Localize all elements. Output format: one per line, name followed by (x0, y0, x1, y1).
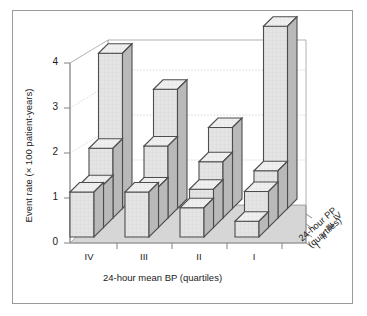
x-axis (70, 243, 306, 249)
y-tick-label: 1 (44, 191, 58, 202)
bar (125, 183, 159, 238)
x-tick-label: III (131, 251, 157, 262)
x-tick-label: IV (76, 251, 102, 262)
x-tick-label: II (186, 251, 212, 262)
y-tick-label: 2 (44, 146, 58, 157)
x-tick-label: I (241, 251, 267, 262)
bar (180, 198, 214, 237)
figure-container: 4 3 2 1 0 IV III II I I II III IV Event … (0, 0, 367, 316)
bar-chart-3d (0, 0, 367, 316)
y-tick-label: 4 (44, 56, 58, 67)
x-axis-label: 24-hour mean BP (quartiles) (55, 272, 270, 283)
y-axis-label: Event rate (× 100 patient-years) (23, 76, 34, 236)
y-tick-label: 0 (44, 236, 58, 247)
y-tick-label: 3 (44, 101, 58, 112)
bar (70, 183, 104, 238)
bar (235, 212, 269, 237)
y-axis (64, 63, 70, 243)
